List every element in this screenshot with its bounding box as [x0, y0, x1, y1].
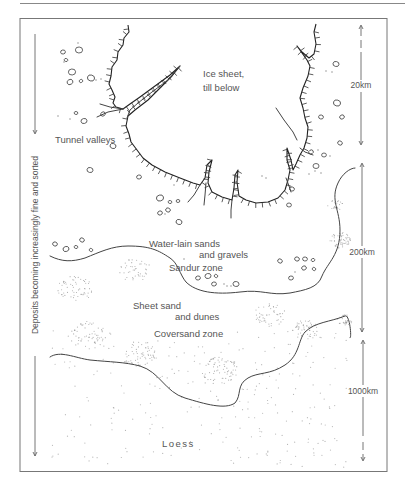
boulder [176, 199, 180, 202]
stipple-dot [337, 201, 338, 202]
stipple-dot [133, 269, 134, 270]
stipple-dot [133, 278, 134, 279]
scale-bar-1000km: 1000km [348, 340, 378, 461]
stipple-dot [146, 269, 147, 270]
stipple-dot [223, 369, 224, 370]
stipple-dot [317, 443, 318, 444]
ice-margin-tick [136, 154, 140, 157]
ice-margin-tick [305, 116, 310, 117]
stipple-dot [280, 316, 281, 317]
ice-margin-tick [206, 170, 211, 171]
stipple-dot [298, 323, 299, 324]
stipple-dot [337, 207, 338, 208]
stipple-dot [303, 326, 304, 327]
stipple-dot [311, 324, 312, 325]
stipple-dot [316, 327, 317, 328]
stipple-dot [342, 203, 343, 204]
stipple-dot [258, 307, 259, 308]
stipple-dot [89, 281, 90, 282]
stipple-dot [294, 442, 295, 443]
stipple-dot [226, 437, 227, 438]
stipple-dot [239, 450, 240, 451]
ice-margin-tick [298, 160, 303, 162]
stipple-dot [152, 346, 153, 347]
label-ice-sheet: Ice sheet, [203, 68, 244, 79]
stipple-dot [261, 314, 262, 315]
stipple-dot [347, 244, 348, 245]
stipple-dot [309, 423, 310, 424]
stipple-dot [72, 279, 73, 280]
boulder [294, 256, 300, 261]
stipple-dot [325, 70, 327, 72]
stipple-dot [126, 451, 127, 452]
stipple-dot [146, 264, 147, 265]
stipple-dot [222, 358, 223, 359]
stipple-dot [295, 388, 296, 389]
stipple-dot [173, 184, 175, 186]
stipple-dot [214, 357, 215, 358]
stipple-dot [228, 370, 229, 371]
ice-margin-tick [141, 159, 144, 163]
stipple-dot [229, 376, 230, 377]
stipple-dot [227, 373, 228, 374]
stipple-dot [234, 365, 235, 366]
stipple-dot [80, 279, 81, 280]
boulder [318, 115, 324, 120]
stipple-dot [57, 115, 59, 117]
stipple-dot [330, 384, 331, 385]
stipple-dot [224, 364, 225, 365]
stipple-dot [298, 333, 299, 334]
stipple-dot [251, 436, 252, 437]
stipple-dot [145, 273, 146, 274]
stipple-dot [340, 235, 341, 236]
boulder [277, 258, 283, 264]
scale-bar-200km: 200km [349, 163, 375, 332]
stipple-dot [310, 367, 311, 368]
boulder [233, 281, 240, 287]
stipple-dot [299, 375, 300, 376]
ice-margin-tick [207, 159, 212, 160]
stipple-dot [276, 320, 277, 321]
sand-stipple-patches [58, 200, 353, 384]
stipple-dot [73, 287, 74, 288]
ice-margin-tick [106, 75, 111, 76]
stipple-dot [142, 354, 143, 355]
stipple-dot [243, 389, 244, 390]
stipple-dot [260, 320, 261, 321]
stipple-dot [337, 208, 338, 209]
stipple-dot [295, 456, 296, 457]
ice-margin-tick [298, 51, 302, 54]
stipple-dot [101, 337, 102, 338]
stipple-dot [110, 372, 111, 373]
stipple-dot [347, 241, 348, 242]
boulder [74, 245, 78, 249]
stipple-dot [78, 277, 79, 278]
stipple-dot [70, 361, 71, 362]
stipple-dot [308, 173, 310, 175]
stipple-dot [307, 334, 308, 335]
boulder [66, 78, 74, 85]
stipple-dot [254, 394, 255, 395]
boulder [205, 273, 212, 279]
stipple-dot [293, 363, 294, 364]
stipple-dot [86, 335, 87, 336]
stipple-dot [287, 331, 288, 332]
stipple-dot [142, 352, 143, 353]
stipple-dot [298, 329, 299, 330]
stipple-dot [320, 172, 322, 174]
stipple-dot [345, 358, 346, 359]
stipple-dot [331, 208, 332, 209]
stipple-dot [239, 401, 240, 402]
boulder [157, 210, 163, 215]
ice-sheet-edge [109, 24, 316, 203]
stipple-dot [276, 379, 277, 380]
stipple-dot [237, 447, 238, 448]
stipple-dot [256, 319, 257, 320]
stipple-dot [149, 383, 150, 384]
stipple-dot [230, 460, 231, 461]
ice-margin-tick [114, 50, 119, 52]
boulder [81, 118, 88, 124]
stipple-dot [109, 333, 110, 334]
stipple-dot [154, 350, 155, 351]
tunnel-valley-channel [231, 200, 232, 218]
